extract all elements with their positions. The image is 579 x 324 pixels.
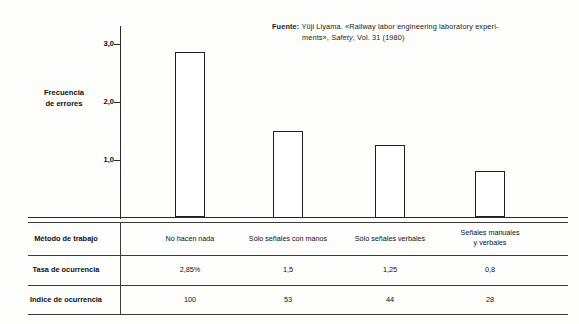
rate-value: 0,8: [425, 265, 555, 275]
plot-area: 1,02,03,0: [0, 0, 579, 222]
y-tick-label: 2,0: [88, 97, 114, 106]
y-tick-mark: [114, 44, 121, 45]
table-rule-2: [28, 285, 568, 286]
category-header-line: Señales manuales: [425, 228, 555, 238]
rate-value-line: 0,8: [425, 265, 555, 275]
y-tick-mark: [114, 160, 121, 161]
bar: [475, 171, 505, 217]
table-rule-bottom: [28, 314, 568, 315]
y-tick-mark: [114, 102, 121, 103]
chart-figure: Fuente: Yüji Liyama. «Railway labor engi…: [0, 0, 579, 324]
y-tick-label: 3,0: [88, 39, 114, 48]
category-header: Señales manualesy verbales: [425, 228, 555, 247]
y-tick-label: 1,0: [88, 155, 114, 164]
bar: [375, 145, 405, 218]
index-value: 28: [425, 295, 555, 305]
table-rule-1: [28, 255, 568, 256]
row-label-rate: Tasa de ocurrencia: [18, 265, 114, 274]
category-header-line: y verbales: [425, 238, 555, 248]
y-axis-line: [120, 26, 121, 219]
bar: [175, 52, 205, 217]
index-value-line: 28: [425, 295, 555, 305]
row-label-index: Indice de ocurrencia: [18, 295, 114, 304]
table-vertical-divider: [120, 222, 121, 314]
bar: [273, 131, 303, 218]
data-table: Método de trabajo Tasa de ocurrencia Ind…: [0, 222, 579, 324]
row-label-method: Método de trabajo: [18, 234, 114, 243]
table-rule-top: [28, 222, 568, 223]
